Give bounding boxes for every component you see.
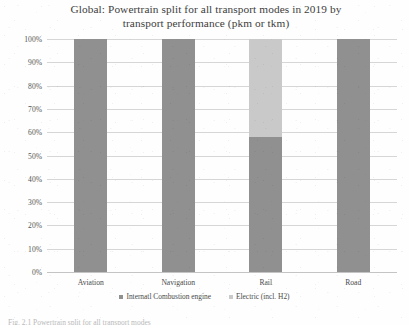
y-tick-label: 100% — [24, 35, 42, 44]
chart-legend: Internatl Combustion engineElectric (inc… — [0, 292, 409, 301]
bar-group-aviation[interactable]: Aviation — [74, 39, 107, 272]
y-tick-label: 20% — [28, 221, 42, 230]
bar-group-rail[interactable]: Rail — [249, 39, 282, 272]
legend-item[interactable]: Internatl Combustion engine — [119, 292, 211, 301]
y-tick-label: 60% — [28, 128, 42, 137]
bar-group-road[interactable]: Road — [337, 39, 370, 272]
bar-segment[interactable] — [74, 39, 107, 272]
bar-segment[interactable] — [162, 39, 195, 272]
x-tick-label-navigation: Navigation — [161, 278, 195, 287]
y-tick-label: 0% — [32, 268, 42, 277]
gridline-0 — [47, 272, 397, 273]
bar-segment[interactable] — [337, 39, 370, 272]
bar-segment[interactable] — [249, 39, 282, 137]
y-tick-label: 90% — [28, 58, 42, 67]
y-tick-label: 70% — [28, 104, 42, 113]
bottom-caption: Fig. 2.1 Powertrain split for all transp… — [8, 318, 268, 325]
legend-label: Internatl Combustion engine — [126, 292, 211, 301]
x-tick-label-road: Road — [345, 278, 361, 287]
chart-title-line-1: Global: Powertrain split for all transpo… — [70, 3, 341, 15]
bar-segment[interactable] — [249, 137, 282, 272]
bar-series-group: AviationNavigationRailRoad — [47, 39, 397, 272]
y-tick-label: 40% — [28, 174, 42, 183]
chart-title-line-2: transport performance (pkm or tkm) — [28, 16, 384, 30]
legend-label: Electric (incl. H2) — [236, 292, 290, 301]
x-tick-label-rail: Rail — [259, 278, 272, 287]
y-tick-label: 80% — [28, 81, 42, 90]
plot-area: 0%10%20%30%40%50%60%70%80%90%100% Aviati… — [47, 39, 397, 272]
legend-item[interactable]: Electric (incl. H2) — [229, 292, 290, 301]
bar-group-navigation[interactable]: Navigation — [162, 39, 195, 272]
x-tick-label-aviation: Aviation — [78, 278, 104, 287]
y-tick-label: 10% — [28, 244, 42, 253]
y-tick-label: 30% — [28, 198, 42, 207]
chart-title: Global: Powertrain split for all transpo… — [28, 2, 384, 30]
legend-swatch-icon — [229, 295, 233, 299]
chart-container: Global: Powertrain split for all transpo… — [0, 0, 409, 325]
y-tick-label: 50% — [28, 151, 42, 160]
legend-swatch-icon — [119, 295, 123, 299]
